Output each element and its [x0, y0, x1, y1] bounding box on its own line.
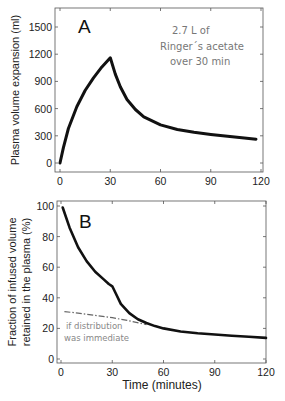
y-tick-label: 80	[42, 231, 54, 243]
y-tick-label: 20	[42, 322, 54, 334]
x-tick-label: 0	[58, 366, 64, 378]
x-tick-label: 60	[158, 366, 170, 378]
y-tick-label: 60	[42, 261, 54, 273]
panel-b-note-line2: was immediate	[64, 333, 129, 343]
panel-b-y-axis-label-line2: retained in the plasma (%)	[20, 218, 32, 346]
y-tick-label: 300	[34, 130, 52, 142]
y-tick-label: 1500	[29, 21, 53, 33]
x-tick-label: 60	[155, 175, 167, 187]
panel-a-curve	[60, 58, 256, 163]
y-tick-label: 40	[42, 292, 54, 304]
panel-b-label: B	[79, 211, 92, 232]
x-tick-label: 0	[57, 175, 63, 187]
panel-a: 030060090012001500 0306090120 A 2.7 L of…	[9, 8, 270, 187]
panel-a-y-axis-label: Plasma volume expansion (ml)	[9, 15, 21, 165]
y-tick-label: 1200	[29, 48, 53, 60]
x-tick-label: 30	[106, 366, 118, 378]
x-tick-label: 30	[104, 175, 116, 187]
y-tick-label: 0	[46, 157, 52, 169]
panel-a-note-line2: Ringer´s acetate	[160, 41, 244, 52]
x-tick-label: 90	[205, 175, 217, 187]
x-tick-label: 120	[257, 366, 275, 378]
x-tick-label: 120	[252, 175, 270, 187]
panel-b-y-axis-label-line1: Fraction of infused volume	[6, 217, 18, 346]
y-tick-label: 100	[36, 200, 54, 212]
panel-b-note-line1: if distribution	[66, 321, 123, 331]
chart-figure: 030060090012001500 0306090120 A 2.7 L of…	[0, 0, 285, 401]
panel-a-label: A	[78, 16, 91, 37]
y-tick-label: 0	[48, 353, 54, 365]
y-tick-label: 600	[34, 103, 52, 115]
y-tick-label: 900	[34, 75, 52, 87]
panel-a-note-line1: 2.7 L of	[172, 25, 210, 36]
panel-b: 020406080100 0306090120 B if distributio…	[6, 200, 275, 392]
panel-a-note-line3: over 30 min	[170, 56, 230, 67]
panel-b-curve	[63, 208, 266, 338]
panel-b-x-axis-label: Time (minutes)	[122, 378, 202, 392]
x-tick-label: 90	[209, 366, 221, 378]
